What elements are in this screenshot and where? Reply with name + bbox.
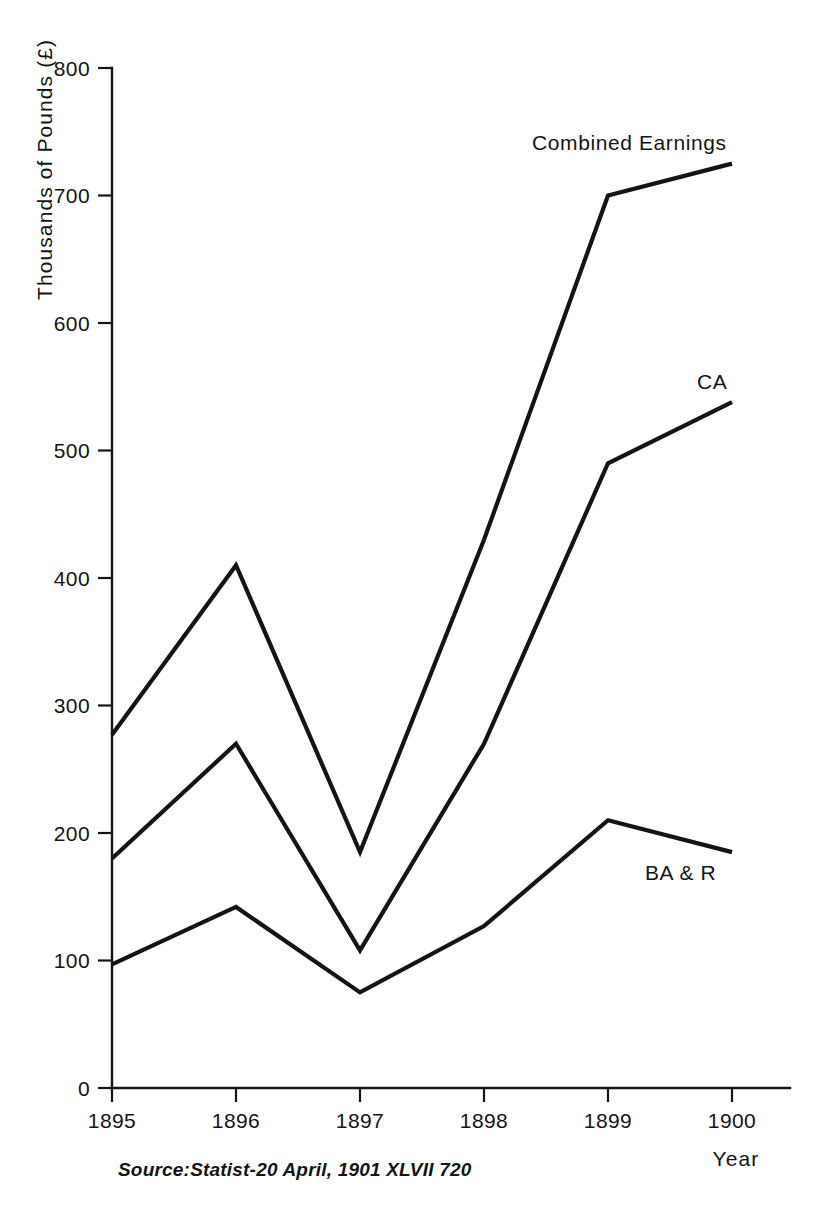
x-tick-label-1896: 1896 bbox=[212, 1109, 260, 1132]
series-label-ba-and-r: BA & R bbox=[645, 861, 716, 884]
y-tick-label-300: 300 bbox=[54, 694, 90, 717]
series-line-ca bbox=[112, 402, 732, 950]
x-tick-label-1899: 1899 bbox=[584, 1109, 632, 1132]
y-tick-label-500: 500 bbox=[54, 439, 90, 462]
series-line-combined-earnings bbox=[112, 164, 732, 853]
y-tick-label-200: 200 bbox=[54, 822, 90, 845]
x-axis-title: Year bbox=[713, 1147, 760, 1170]
x-tick-label-1900: 1900 bbox=[708, 1109, 756, 1132]
y-axis-ticks bbox=[98, 68, 112, 1088]
y-tick-label-700: 700 bbox=[54, 184, 90, 207]
series-label-ca: CA bbox=[697, 370, 727, 393]
y-axis-title: Thousands of Pounds (£) bbox=[33, 39, 56, 300]
x-axis-ticks bbox=[112, 1088, 732, 1102]
y-tick-label-0: 0 bbox=[78, 1077, 90, 1100]
y-tick-label-100: 100 bbox=[54, 949, 90, 972]
y-tick-label-800: 800 bbox=[54, 57, 90, 80]
x-tick-label-1897: 1897 bbox=[336, 1109, 384, 1132]
y-tick-label-600: 600 bbox=[54, 312, 90, 335]
line-chart-svg: 0 100 200 300 400 500 600 700 800 1895 1… bbox=[0, 0, 819, 1216]
series-label-combined-earnings: Combined Earnings bbox=[532, 131, 727, 154]
y-tick-label-400: 400 bbox=[54, 567, 90, 590]
x-tick-label-1898: 1898 bbox=[460, 1109, 508, 1132]
x-tick-label-1895: 1895 bbox=[88, 1109, 136, 1132]
chart-figure: 0 100 200 300 400 500 600 700 800 1895 1… bbox=[0, 0, 819, 1216]
source-note: Source:Statist-20 April, 1901 XLVII 720 bbox=[118, 1159, 472, 1180]
